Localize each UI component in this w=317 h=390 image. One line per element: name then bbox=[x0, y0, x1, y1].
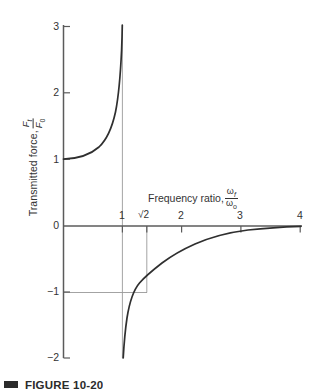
x-tick-label-sqrt2: √2 bbox=[138, 209, 149, 220]
figure-container: Transmitted force,FtF0 Frequency ratio,ω… bbox=[0, 0, 317, 390]
y-tick-label-0: 0 bbox=[46, 219, 59, 231]
y-axis-den-subscript: 0 bbox=[38, 118, 45, 122]
x-axis-num-symbol: ω bbox=[227, 186, 234, 196]
figure-caption: FIGURE 10-20 bbox=[4, 379, 103, 390]
y-axis-title-text: Transmitted force, bbox=[27, 130, 39, 216]
figure-caption-text: FIGURE 10-20 bbox=[25, 379, 103, 390]
y-axis-title-fraction: FtF0 bbox=[21, 118, 46, 128]
y-tick-label-3: 3 bbox=[46, 20, 59, 32]
y-axis-ticks bbox=[64, 27, 71, 359]
curve-branch-left bbox=[64, 25, 123, 159]
x-axis-title-fraction: ωfωo bbox=[225, 187, 238, 210]
x-axis-title: Frequency ratio,ωfωo bbox=[148, 188, 238, 211]
x-axis-num-subscript: f bbox=[234, 191, 236, 198]
y-axis-title: Transmitted force,FtF0 bbox=[22, 72, 47, 262]
y-tick-label-minus-1: −1 bbox=[41, 285, 59, 297]
y-tick-label-2: 2 bbox=[46, 86, 59, 98]
x-tick-label-2: 2 bbox=[178, 209, 184, 221]
x-tick-label-1: 1 bbox=[119, 209, 125, 221]
x-axis-den-symbol: ω bbox=[226, 198, 233, 208]
x-tick-label-4: 4 bbox=[297, 209, 303, 221]
y-tick-label-minus-2: −2 bbox=[41, 351, 59, 363]
x-axis-title-text: Frequency ratio, bbox=[148, 192, 224, 204]
y-axis-den-symbol: F bbox=[33, 122, 44, 128]
square-bullet-icon bbox=[4, 381, 18, 388]
y-axis-num-symbol: F bbox=[20, 121, 31, 127]
y-axis-num-subscript: t bbox=[26, 119, 33, 121]
x-tick-label-3: 3 bbox=[237, 209, 243, 221]
curve-branch-right bbox=[123, 226, 301, 358]
y-tick-label-1: 1 bbox=[46, 153, 59, 165]
